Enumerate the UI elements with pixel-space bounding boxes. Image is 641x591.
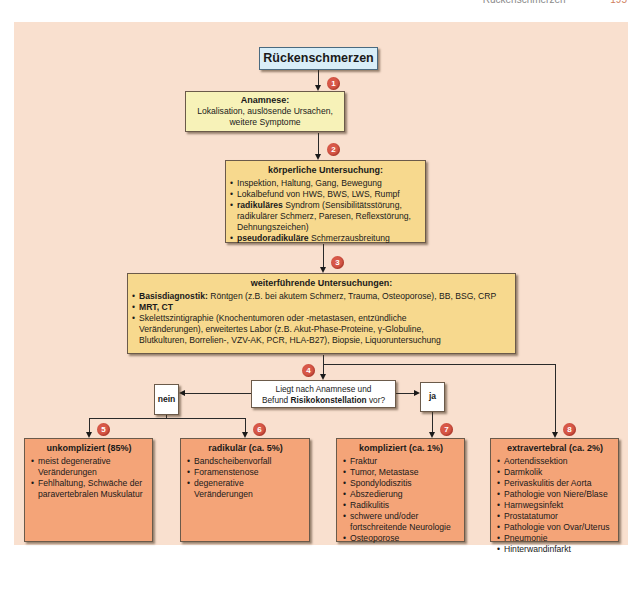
anamnese-line-2: weitere Symptome <box>186 117 344 128</box>
outcome-title: radikulär (ca. 5%) <box>187 443 304 454</box>
outcome-title: extravertebral (ca. 2%) <box>497 443 613 454</box>
list-item: Darmkolik <box>497 467 613 478</box>
anamnese-title: Anamnese: <box>186 95 344 106</box>
outcome-radicular: radikulär (ca. 5%) Bandscheibenvorfall F… <box>180 438 310 542</box>
list-item: Skelettszintigraphie (Knochentumoren ode… <box>132 313 511 346</box>
connector-to-5 <box>89 418 90 432</box>
list-item: Aortendissektion <box>497 456 613 467</box>
list-item: Lokalbefund von HWS, BWS, LWS, Rumpf <box>230 189 421 200</box>
further-exam-title: weiterführende Untersuchungen: <box>132 278 511 289</box>
list-item: Spondylodiszitis <box>343 478 459 489</box>
connector-nein-split <box>89 418 245 419</box>
list-item: Harnwegsinfekt <box>497 500 613 511</box>
connector-2 <box>318 133 319 154</box>
list-item: schwere und/oder fortschreitende Neurolo… <box>343 511 459 533</box>
list-item: pseudoradikuläre Schmerzausbreitung <box>230 233 421 244</box>
step-badge-1: 1 <box>327 77 340 90</box>
list-item: Fehlhaltung, Schwäche der paravertebrale… <box>31 478 147 500</box>
list-item: radikuläres Syndrom (Sensibilitätsstörun… <box>230 200 421 233</box>
connector-4 <box>323 355 324 375</box>
list-item: MRT, CT <box>132 302 511 313</box>
list-item: Osteoporose <box>343 533 459 544</box>
further-exam-node: weiterführende Untersuchungen: Basisdiag… <box>127 273 516 354</box>
outcome-extravertebral: extravertebral (ca. 2%) Aortendissektion… <box>490 438 619 542</box>
list-item: Basisdiagnostik: Röntgen (z.B. bei akute… <box>132 291 511 302</box>
outcome-title: unkompliziert (85%) <box>31 443 147 454</box>
connector-1 <box>318 70 319 86</box>
risk-question-node: Liegt nach Anamnese und Befund Risikokon… <box>251 380 396 408</box>
question-line-1: Liegt nach Anamnese und <box>252 384 395 395</box>
step-badge-2: 2 <box>327 143 340 156</box>
connector-to-6 <box>245 418 246 432</box>
anamnese-node: Anamnese: Lokalisation, auslösende Ursac… <box>185 91 345 132</box>
list-item: Prostatatumor <box>497 511 613 522</box>
list-item: degenerative Veränderungen <box>187 478 304 500</box>
yes-node: ja <box>420 382 445 412</box>
page-number: 195 <box>610 0 627 5</box>
anamnese-line-1: Lokalisation, auslösende Ursachen, <box>186 106 344 117</box>
arrowhead-nein <box>179 390 185 396</box>
list-item: Pathologie von Ovar/Uterus <box>497 522 613 533</box>
start-node: Rückenschmerzen <box>259 47 378 70</box>
list-item: Pneumonie <box>497 533 613 544</box>
outcome-complicated: kompliziert (ca. 1%) Fraktur Tumor, Meta… <box>336 438 465 542</box>
connector-to-nein <box>184 393 251 394</box>
step-badge-8: 8 <box>563 423 576 436</box>
no-node: nein <box>154 384 179 415</box>
step-badge-3: 3 <box>331 256 344 269</box>
list-item: Foramenstenose <box>187 467 304 478</box>
step-badge-6: 6 <box>253 423 266 436</box>
physical-exam-node: körperliche Untersuchung: Inspektion, Ha… <box>225 160 426 243</box>
list-item: Hinterwandinfarkt <box>497 544 613 555</box>
step-badge-7: 7 <box>440 423 453 436</box>
list-item: Fraktur <box>343 456 459 467</box>
connector-3 <box>323 244 324 267</box>
list-item: Bandscheibenvorfall <box>187 456 304 467</box>
page-header: Rückenschmerzen 195 <box>483 0 627 5</box>
page-header-title: Rückenschmerzen <box>483 0 566 5</box>
list-item: Radikulitis <box>343 500 459 511</box>
outcome-uncomplicated: unkompliziert (85%) meist degenerative V… <box>24 438 153 542</box>
list-item: Inspektion, Haltung, Gang, Bewegung <box>230 178 421 189</box>
step-badge-5: 5 <box>97 423 110 436</box>
list-item: Tumor, Metastase <box>343 467 459 478</box>
question-line-2: Befund Risikokonstellation vor? <box>252 395 395 406</box>
outcome-title: kompliziert (ca. 1%) <box>343 443 459 454</box>
connector-to-7 <box>432 412 433 432</box>
list-item: Abszedierung <box>343 489 459 500</box>
list-item: Perivaskulitis der Aorta <box>497 478 613 489</box>
connector-to-extravertebral-h <box>323 364 555 365</box>
list-item: Pathologie von Niere/Blase <box>497 489 613 500</box>
physical-exam-title: körperliche Untersuchung: <box>230 165 421 176</box>
connector-to-ja <box>396 393 414 394</box>
list-item: meist degenerative Veränderungen <box>31 456 147 478</box>
connector-to-extravertebral-v <box>555 364 556 432</box>
step-badge-4: 4 <box>302 364 315 377</box>
